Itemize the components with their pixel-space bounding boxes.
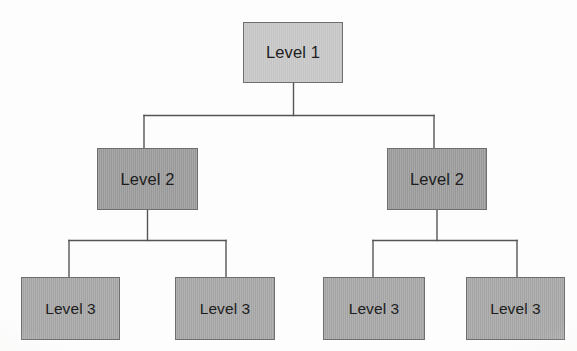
node-level-3-fourth[interactable]: Level 3: [466, 277, 565, 340]
node-label: Level 3: [349, 301, 400, 317]
node-label: Level 3: [45, 301, 96, 317]
node-label: Level 3: [490, 301, 541, 317]
node-level-3-second[interactable]: Level 3: [175, 277, 275, 340]
node-label: Level 2: [121, 171, 175, 188]
node-label: Level 2: [410, 171, 464, 188]
node-level-2-right[interactable]: Level 2: [387, 148, 487, 210]
node-label: Level 3: [200, 301, 251, 317]
node-level-3-third[interactable]: Level 3: [323, 277, 425, 340]
diagram-canvas: Level 1 Level 2 Level 2 Level 3 Level 3 …: [0, 0, 577, 351]
node-level-3-first[interactable]: Level 3: [21, 277, 120, 340]
node-level-1-root[interactable]: Level 1: [243, 22, 343, 83]
node-label: Level 1: [266, 44, 320, 61]
node-level-2-left[interactable]: Level 2: [97, 148, 198, 210]
